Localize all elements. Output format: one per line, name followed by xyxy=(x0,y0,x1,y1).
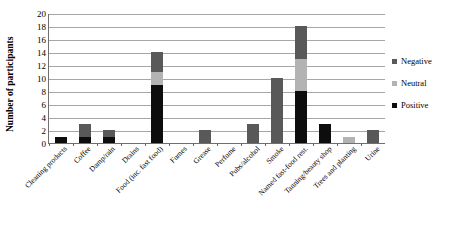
x-tick-label: Smoke xyxy=(265,145,285,165)
legend-label: Negative xyxy=(401,57,432,66)
x-tick-label: Cleaning products xyxy=(24,145,69,190)
legend-swatch-icon xyxy=(392,81,397,86)
bar-slot xyxy=(193,14,217,143)
y-axis-tick-labels: 02468101214161820 xyxy=(22,14,46,144)
bar-slot xyxy=(241,14,265,143)
legend-swatch-icon xyxy=(392,59,397,64)
x-tick-label: Fumes xyxy=(169,145,189,165)
x-tick-label: Grease xyxy=(193,145,213,165)
bar-stack[interactable] xyxy=(367,130,378,143)
bar-slot xyxy=(313,14,337,143)
bar-slot xyxy=(97,14,121,143)
bar-segment-positive xyxy=(295,91,306,143)
bar-segment-negative xyxy=(295,26,306,59)
bar-stack[interactable] xyxy=(295,26,306,143)
y-tick-label: 4 xyxy=(42,114,47,123)
bar-segment-negative xyxy=(151,52,162,72)
stacked-bar-chart: Number of participants 02468101214161820… xyxy=(0,0,456,227)
y-tick-label: 6 xyxy=(42,101,47,110)
bar-stack[interactable] xyxy=(151,52,162,143)
bar-slot xyxy=(49,14,73,143)
bar-segment-neutral xyxy=(295,59,306,92)
y-tick-label: 8 xyxy=(42,88,47,97)
x-tick-label: Drains xyxy=(121,145,141,165)
bar-slot xyxy=(265,14,289,143)
bar-slot xyxy=(169,14,193,143)
bar-stack[interactable] xyxy=(199,130,210,143)
bar-slot xyxy=(289,14,313,143)
y-tick-label: 10 xyxy=(37,75,46,84)
y-tick-label: 12 xyxy=(37,62,46,71)
bar-stack[interactable] xyxy=(319,124,330,144)
bar-segment-negative xyxy=(79,124,90,137)
y-tick-label: 16 xyxy=(37,36,46,45)
bar-segment-neutral xyxy=(343,137,354,144)
y-axis-title: Number of participants xyxy=(2,14,20,154)
bars-layer xyxy=(49,14,385,143)
bar-segment-positive xyxy=(55,137,66,144)
bar-stack[interactable] xyxy=(55,137,66,144)
bar-segment-positive xyxy=(319,124,330,144)
y-tick-label: 0 xyxy=(42,140,47,149)
legend-item[interactable]: Neutral xyxy=(392,78,456,88)
bar-segment-negative xyxy=(271,78,282,143)
bar-stack[interactable] xyxy=(247,124,258,144)
bar-segment-positive xyxy=(151,85,162,144)
bar-segment-negative xyxy=(199,130,210,143)
bar-segment-neutral xyxy=(151,72,162,85)
plot-area xyxy=(48,14,385,144)
legend-item[interactable]: Negative xyxy=(392,56,456,66)
bar-segment-negative xyxy=(367,130,378,143)
legend-item[interactable]: Positive xyxy=(392,100,456,110)
y-tick-label: 2 xyxy=(42,127,47,136)
legend-label: Positive xyxy=(401,101,428,110)
y-tick-label: 20 xyxy=(37,10,46,19)
chart-legend: NegativeNeutralPositive xyxy=(392,56,456,122)
bar-slot xyxy=(217,14,241,143)
bar-segment-negative xyxy=(247,124,258,144)
x-tick-label: Coffee xyxy=(73,145,93,165)
legend-swatch-icon xyxy=(392,103,397,108)
bar-slot xyxy=(361,14,385,143)
x-axis-tick-labels: Cleaning productsCoffeeDamp/rainDrainsFo… xyxy=(48,145,385,225)
x-tick-label: Food (inc. fast food) xyxy=(115,145,165,195)
y-tick-label: 18 xyxy=(37,23,46,32)
bar-segment-positive xyxy=(79,137,90,144)
bar-segment-positive xyxy=(103,137,114,144)
bar-stack[interactable] xyxy=(271,78,282,143)
bar-stack[interactable] xyxy=(79,124,90,144)
bar-slot xyxy=(145,14,169,143)
y-tick-label: 14 xyxy=(37,49,46,58)
x-tick-label: Urine xyxy=(364,145,382,163)
bar-stack[interactable] xyxy=(343,137,354,144)
bar-slot xyxy=(121,14,145,143)
bar-slot xyxy=(73,14,97,143)
bar-stack[interactable] xyxy=(103,130,114,143)
bar-slot xyxy=(337,14,361,143)
legend-label: Neutral xyxy=(401,79,427,88)
